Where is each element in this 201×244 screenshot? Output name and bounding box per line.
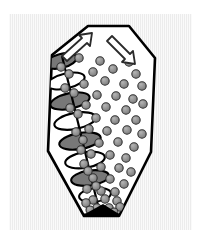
particle: [65, 70, 73, 78]
particle: [75, 54, 83, 62]
particle: [132, 70, 140, 78]
particle: [115, 164, 123, 172]
particle: [66, 104, 74, 112]
particle: [123, 126, 131, 134]
particle: [109, 65, 117, 73]
particle: [83, 185, 91, 193]
particle: [111, 188, 119, 196]
particle: [74, 110, 82, 118]
particle: [112, 92, 120, 100]
particle: [101, 77, 109, 85]
particle: [139, 100, 147, 108]
particle: [95, 139, 103, 147]
particle: [92, 114, 100, 122]
particle: [129, 95, 137, 103]
particle: [138, 130, 146, 138]
particle: [138, 82, 146, 90]
particle: [106, 175, 114, 183]
particle: [103, 127, 111, 135]
particle: [106, 151, 114, 159]
particle: [127, 168, 135, 176]
particle: [85, 125, 93, 133]
particle: [97, 163, 105, 171]
vessel-diagram: [0, 0, 201, 244]
particle: [114, 138, 122, 146]
particle: [77, 146, 85, 154]
particle: [122, 154, 130, 162]
particle: [120, 180, 128, 188]
particle: [111, 116, 119, 124]
particle: [79, 136, 87, 144]
particle: [102, 103, 110, 111]
particle: [84, 167, 92, 175]
particle: [120, 80, 128, 88]
particle: [93, 91, 101, 99]
particle: [96, 57, 104, 65]
particle: [82, 101, 90, 109]
particle: [130, 143, 138, 151]
particle: [72, 128, 80, 136]
particle: [80, 80, 88, 88]
particle: [92, 182, 100, 190]
particle: [61, 84, 69, 92]
particle: [70, 89, 78, 97]
particle: [89, 68, 97, 76]
particle: [87, 150, 95, 158]
particle: [132, 116, 140, 124]
figure-root: [0, 0, 201, 244]
particle: [122, 106, 130, 114]
particle: [57, 63, 65, 71]
particle: [101, 195, 109, 203]
